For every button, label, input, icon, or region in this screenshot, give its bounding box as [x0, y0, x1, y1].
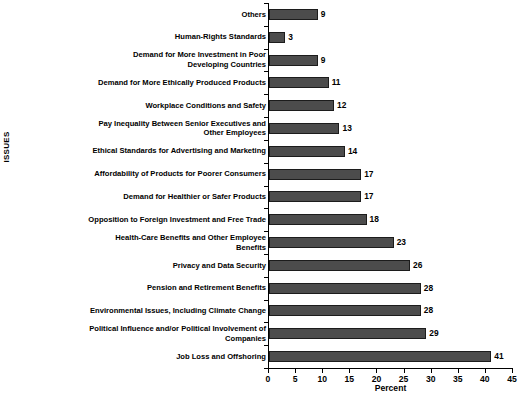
y-axis-tick — [264, 254, 268, 255]
category-label: Pension and Retirement Benefits — [14, 283, 266, 293]
category-label: Demand for More Ethically Produced Produ… — [14, 78, 266, 88]
x-axis-tick — [485, 369, 486, 373]
y-axis-tick — [264, 140, 268, 141]
x-axis-line — [268, 368, 513, 369]
bar-value-label: 9 — [321, 9, 326, 20]
y-axis-tick — [264, 231, 268, 232]
bar-value-label: 9 — [321, 55, 326, 66]
y-axis-tick — [264, 117, 268, 118]
bar — [269, 237, 394, 248]
category-label: Ethical Standards for Advertising and Ma… — [14, 146, 266, 156]
category-label: Demand for Healthier or Safer Products — [14, 192, 266, 202]
bar — [269, 146, 345, 157]
y-axis-tick — [264, 277, 268, 278]
bar-value-label: 26 — [413, 260, 422, 271]
bar-value-label: 13 — [342, 123, 351, 134]
bar — [269, 100, 334, 111]
category-label: Political Influence and/or Political Inv… — [14, 324, 266, 343]
bar-value-label: 11 — [332, 77, 341, 88]
y-axis-tick — [264, 71, 268, 72]
bar — [269, 283, 421, 294]
bar — [269, 191, 361, 202]
category-label: Workplace Conditions and Safety — [14, 101, 266, 111]
category-label: Demand for More Investment in Poor Devel… — [14, 50, 266, 69]
x-axis-tick — [404, 369, 405, 373]
x-axis-tick — [376, 369, 377, 373]
bar-value-label: 12 — [337, 100, 346, 111]
bar-chart: ISSUES OthersHuman-Rights StandardsDeman… — [0, 0, 528, 399]
y-axis-tick — [264, 49, 268, 50]
category-label: Others — [14, 10, 266, 20]
x-axis-tick — [268, 369, 269, 373]
bar-value-label: 23 — [397, 237, 406, 248]
category-label: Environmental Issues, Including Climate … — [14, 306, 266, 316]
y-axis-tick — [264, 26, 268, 27]
x-axis-title: Percent — [268, 383, 513, 393]
category-label: Pay Inequality Between Senior Executives… — [14, 119, 266, 138]
bar-value-label: 17 — [364, 191, 373, 202]
bar-value-label: 18 — [370, 214, 379, 225]
bar-value-label: 41 — [494, 351, 503, 362]
bar — [269, 305, 421, 316]
bar — [269, 55, 318, 66]
bar — [269, 328, 426, 339]
x-axis-tick — [512, 369, 513, 373]
bar — [269, 9, 318, 20]
category-label: Privacy and Data Security — [14, 261, 266, 271]
y-axis-tick — [264, 345, 268, 346]
bar — [269, 169, 361, 180]
y-axis-tick — [264, 300, 268, 301]
bar — [269, 32, 285, 43]
x-axis-tick — [295, 369, 296, 373]
bar-value-label: 17 — [364, 169, 373, 180]
x-axis-tick — [458, 369, 459, 373]
bar — [269, 260, 410, 271]
bar — [269, 77, 329, 88]
y-axis-tick — [264, 94, 268, 95]
plot-area: 9391112131417171823262828294105101520253… — [268, 3, 512, 368]
bar-value-label: 3 — [288, 32, 293, 43]
category-label: Human-Rights Standards — [14, 32, 266, 42]
bar — [269, 351, 491, 362]
y-axis-tick — [264, 186, 268, 187]
bar-value-label: 28 — [424, 305, 433, 316]
category-label: Job Loss and Offshoring — [14, 352, 266, 362]
y-axis-tick — [264, 163, 268, 164]
x-axis-tick — [349, 369, 350, 373]
y-axis-tick — [264, 208, 268, 209]
y-axis-title: ISSUES — [0, 107, 14, 187]
category-label: Opposition to Foreign Investment and Fre… — [14, 215, 266, 225]
y-axis-tick — [264, 322, 268, 323]
category-label: Health-Care Benefits and Other Employee … — [14, 233, 266, 252]
x-axis-tick — [431, 369, 432, 373]
category-axis-labels: OthersHuman-Rights StandardsDemand for M… — [14, 3, 266, 368]
bar — [269, 123, 339, 134]
category-label: Affordability of Products for Poorer Con… — [14, 169, 266, 179]
x-axis-tick — [322, 369, 323, 373]
y-axis-tick — [264, 3, 268, 4]
bar-value-label: 29 — [429, 328, 438, 339]
bar-value-label: 28 — [424, 283, 433, 294]
bar-value-label: 14 — [348, 146, 357, 157]
bar — [269, 214, 367, 225]
